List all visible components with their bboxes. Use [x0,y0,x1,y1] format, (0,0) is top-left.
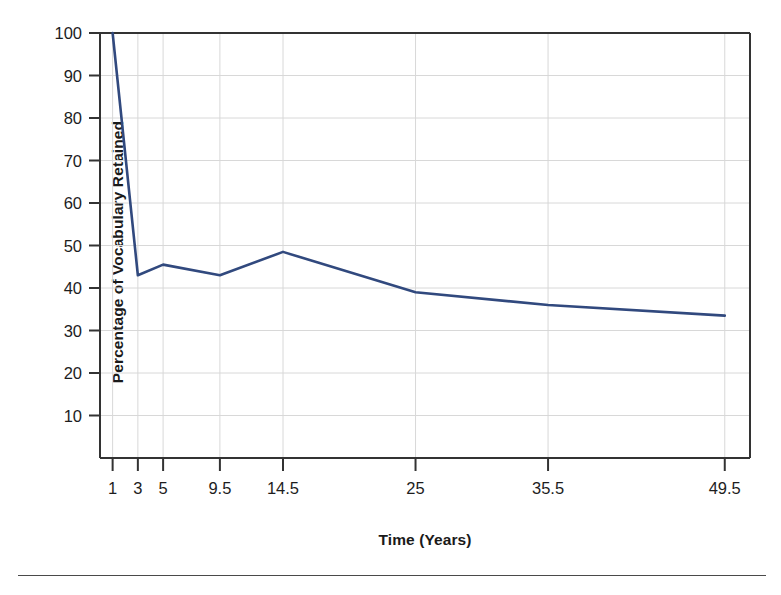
y-axis-ticks [89,33,100,416]
x-axis-ticks [113,458,725,471]
horizontal-gridlines [100,33,750,416]
plot-area [0,0,781,595]
x-axis-title: Time (Years) [100,531,750,549]
chart-figure: Percentage of Vocabulary Retained 102030… [0,0,781,595]
bottom-divider-rule [18,575,766,576]
